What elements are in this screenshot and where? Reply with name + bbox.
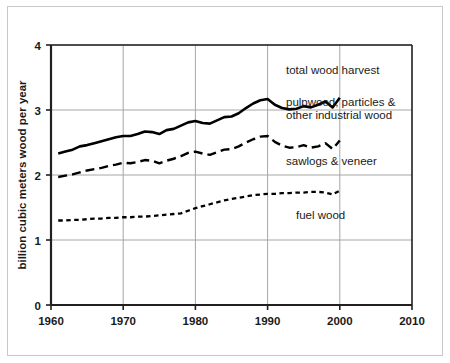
x-tick-label: 1970	[110, 315, 136, 327]
y-tick-label: 2	[35, 170, 41, 182]
axis-ticks: 01234196019701980199020002010	[35, 40, 425, 328]
chart-figure: 01234196019701980199020002010billion cub…	[0, 0, 450, 363]
gridlines	[51, 45, 412, 305]
x-tick-label: 1990	[255, 315, 281, 327]
series-label-pulpwood-particles: pulpwood, particles &	[286, 96, 396, 108]
x-tick-label: 1980	[183, 315, 209, 327]
y-tick-label: 4	[35, 40, 42, 52]
x-tick-label: 2010	[399, 315, 425, 327]
series-label-sawlogs-veneer: sawlogs & veneer	[286, 155, 377, 167]
series-label-fuel-wood: fuel wood	[296, 209, 345, 221]
series-annotations: total wood harvestpulpwood, particles &o…	[286, 64, 396, 221]
series-label-total-wood-harvest: total wood harvest	[286, 64, 380, 76]
wood-harvest-line-chart: 01234196019701980199020002010billion cub…	[0, 0, 450, 363]
series-label-other-industrial-wood: other industrial wood	[286, 109, 392, 121]
x-tick-label: 2000	[327, 315, 353, 327]
x-tick-label: 1960	[38, 315, 64, 327]
y-axis-title: billion cubic meters wood per year	[16, 80, 28, 270]
y-tick-label: 1	[35, 235, 42, 247]
y-tick-label: 3	[35, 105, 41, 117]
y-tick-label: 0	[35, 300, 41, 312]
